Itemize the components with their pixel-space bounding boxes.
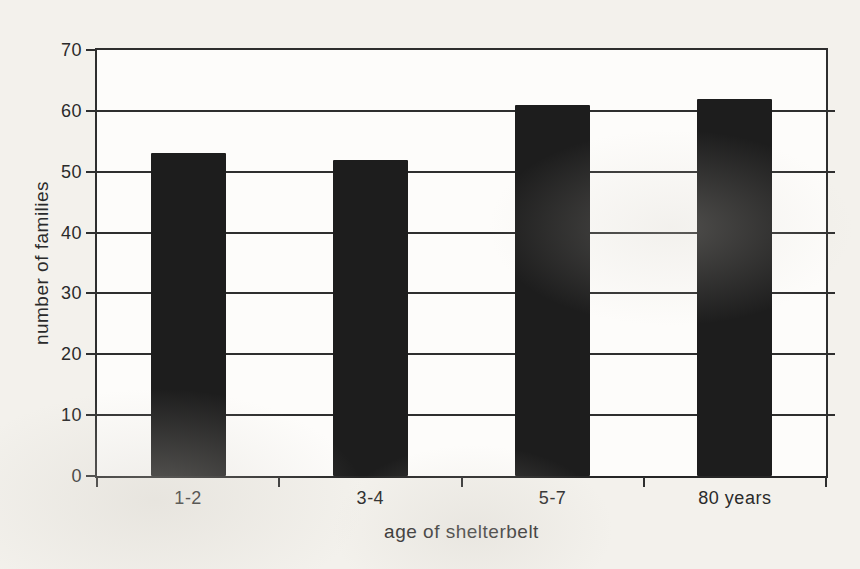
x-tick-label-1-2: 1-2 [174, 488, 202, 508]
y-tick-label-30: 30 [4, 284, 82, 302]
bar-3-4 [333, 160, 408, 476]
y-tick-label-70: 70 [4, 41, 82, 59]
bar-80-years [697, 99, 772, 476]
x-tick-label-3-4: 3-4 [357, 488, 385, 508]
x-tick-mark-1 [278, 477, 280, 487]
y-tick-mark-40 [86, 232, 95, 234]
x-axis-title: age of shelterbelt [95, 521, 828, 543]
y-tick-mark-70 [86, 49, 95, 51]
y-tick-label-0: 0 [4, 467, 82, 485]
y-tick-label-60: 60 [4, 102, 82, 120]
y-tick-label-20: 20 [4, 345, 82, 363]
bar-5-7 [515, 105, 590, 476]
y-tick-label-10: 10 [4, 406, 82, 424]
x-tick-mark-4 [825, 477, 827, 487]
x-tick-mark-3 [643, 477, 645, 487]
x-tick-label-80-years: 80 years [698, 488, 771, 508]
y-tick-mark-20 [86, 353, 95, 355]
scanned-document-page: number of families 0102030405060701-23-4… [0, 0, 860, 569]
y-tick-mark-0 [86, 475, 95, 477]
y-tick-mark-60 [86, 110, 95, 112]
y-tick-mark-50 [86, 171, 95, 173]
y-tick-label-40: 40 [4, 224, 82, 242]
y-tick-label-50: 50 [4, 163, 82, 181]
plot-area [95, 48, 828, 478]
x-tick-mark-0 [96, 477, 98, 487]
y-axis-title: number of families [31, 181, 53, 345]
y-tick-mark-30 [86, 292, 95, 294]
x-tick-label-5-7: 5-7 [539, 488, 567, 508]
x-tick-mark-2 [461, 477, 463, 487]
y-tick-mark-10 [86, 414, 95, 416]
bar-1-2 [151, 153, 226, 476]
